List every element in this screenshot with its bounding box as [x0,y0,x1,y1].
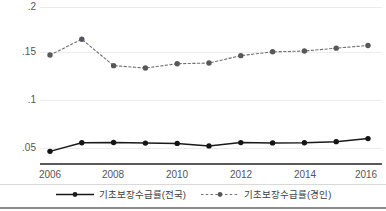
data-point [238,140,243,145]
x-axis-tick-2010: 2010 [166,170,188,180]
data-point [143,140,148,145]
data-point [47,149,52,154]
data-point [365,136,370,141]
data-point [111,140,116,145]
data-point [111,63,116,68]
legend-item-gyeongin[interactable]: 기초보장수급률(경인) [200,189,331,200]
x-axis-tick-2014: 2014 [294,170,316,180]
data-point [365,43,370,48]
data-point [175,141,180,146]
x-axis-tick-2008: 2008 [102,170,124,180]
data-point [302,140,307,145]
x-axis-tick-2012: 2012 [230,170,252,180]
plot-area: .2 .15 .1 .05 2006 2008 2010 2012 2014 2… [0,0,386,211]
data-point [270,49,275,54]
data-point [334,45,339,50]
footer-rule [0,207,386,209]
series-line-gyeongin [47,37,370,71]
data-point [143,65,148,70]
x-axis-tick-2006: 2006 [39,170,61,180]
data-point [175,61,180,66]
data-point [334,139,339,144]
legend-key-dashed-line-icon [200,189,240,200]
data-point [47,52,52,57]
x-axis-line [40,163,382,165]
data-point [206,143,211,148]
chart-legend: 기초보장수급률(전국) 기초보장수급률(경인) [0,189,386,200]
data-point [238,53,243,58]
series-line-national [47,136,370,154]
data-point [302,48,307,53]
legend-label-gyeongin: 기초보장수급률(경인) [244,189,331,200]
legend-item-national[interactable]: 기초보장수급률(전국) [55,189,186,200]
line-chart: .2 .15 .1 .05 2006 2008 2010 2012 2014 2… [0,0,386,211]
data-point [79,140,84,145]
data-point [79,37,84,42]
data-point [270,140,275,145]
data-point [206,60,211,65]
legend-label-national: 기초보장수급률(전국) [99,189,186,200]
legend-divider [0,184,386,185]
x-axis-tick-2016: 2016 [355,170,377,180]
legend-key-solid-line-icon [55,189,95,200]
